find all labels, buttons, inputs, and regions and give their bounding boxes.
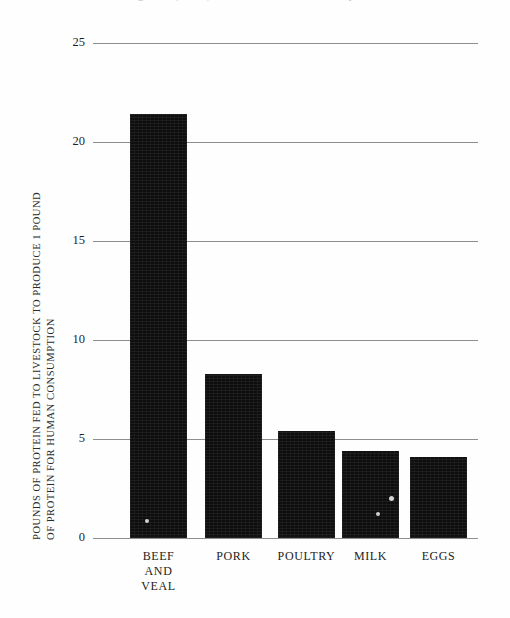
y-axis-tick-labels: 0510152025 [55, 43, 85, 538]
plot-area [93, 43, 478, 538]
x-label-pork: PORK [192, 549, 275, 564]
y-tick-label-20: 20 [55, 134, 85, 149]
y-axis-title-line-1: POUNDS OF PROTEIN FED TO LIVESTOCK TO PR… [31, 192, 42, 540]
x-label-line: BEEF [117, 549, 200, 564]
y-tick-label-5: 5 [55, 431, 85, 446]
chart-figure: Figure 3. (above) Protein conversion eff… [0, 0, 510, 618]
y-tick-label-0: 0 [55, 530, 85, 545]
x-label-eggs: EGGS [397, 549, 480, 564]
y-axis-title: POUNDS OF PROTEIN FED TO LIVESTOCK TO PR… [17, 40, 57, 540]
bar-eggs [410, 457, 467, 538]
scan-speck [145, 519, 149, 523]
y-tick-label-15: 15 [55, 233, 85, 248]
bar-pork [205, 374, 262, 538]
bar-beef-and-veal [130, 114, 187, 538]
bar-milk [342, 451, 399, 538]
y-tick-label-25: 25 [55, 35, 85, 50]
scan-speck [389, 496, 394, 501]
cut-off-caption-text: Figure 3. (above) Protein conversion eff… [128, 0, 355, 1]
gridline-0 [93, 538, 478, 539]
x-label-beef-and-veal: BEEFANDVEAL [117, 549, 200, 594]
gridline-25 [93, 43, 478, 44]
y-tick-label-10: 10 [55, 332, 85, 347]
x-label-line: VEAL [117, 579, 200, 594]
bar-poultry [278, 431, 335, 538]
cut-off-caption: Figure 3. (above) Protein conversion eff… [0, 0, 510, 9]
x-label-line: EGGS [397, 549, 480, 564]
x-label-line: AND [117, 564, 200, 579]
scan-speck [376, 512, 380, 516]
x-label-line: PORK [192, 549, 275, 564]
